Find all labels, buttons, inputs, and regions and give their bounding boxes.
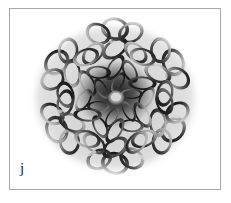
figure-panel: j — [0, 0, 231, 203]
panel-letter-label: j — [20, 161, 24, 176]
photo-soft-focus — [36, 27, 194, 169]
chainmail-ring-cluster-photo — [10, 9, 220, 189]
photograph-area — [10, 9, 220, 189]
panel-border-frame: j — [9, 8, 221, 190]
